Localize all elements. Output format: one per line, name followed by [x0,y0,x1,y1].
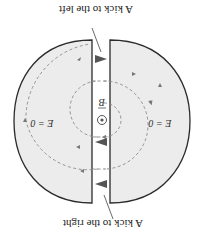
kick-left-pointer [92,28,101,52]
magnetic-field-label: B [99,97,105,108]
dot-in-circle-icon [98,116,107,125]
kick-left-label: A kick to the left [59,4,133,16]
kick-right-label: A kick to the right [63,218,143,230]
triangle-arrow-icon [95,180,107,188]
field-label-right-dee: E = 0 [149,118,173,129]
diagram-canvas: A kick to the right A kick to the left E… [0,0,206,242]
triangle-arrow-icon [95,138,107,146]
field-label-left-dee: E = 0 [31,118,55,129]
triangle-arrow-icon [95,55,107,63]
cyclotron-diagram: A kick to the right A kick to the left E… [0,0,206,242]
kick-arrows [95,55,107,188]
